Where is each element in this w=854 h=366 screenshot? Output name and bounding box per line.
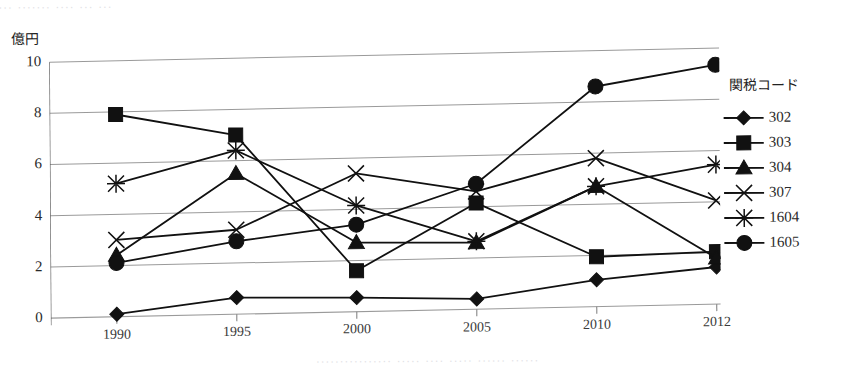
square-marker-icon [722, 131, 766, 153]
data-point-303 [229, 128, 243, 142]
data-point-303 [350, 264, 364, 278]
cross-x-marker-icon [722, 181, 766, 203]
y-axis-unit-label: 億円 [11, 28, 39, 48]
x-tick-label-2005: 2005 [442, 319, 512, 335]
series-layer [106, 57, 721, 321]
data-point-1605 [708, 57, 721, 72]
data-point-1605 [229, 234, 244, 249]
asterisk-marker-icon [722, 206, 766, 228]
y-tick-label-8: 8 [8, 104, 42, 121]
data-point-302 [470, 292, 484, 306]
data-point-1605 [588, 79, 603, 94]
data-point-307 [588, 150, 604, 166]
data-point-304 [228, 165, 244, 179]
chart-canvas [49, 43, 721, 325]
data-point-1605 [349, 217, 364, 232]
x-tick-label-2010: 2010 [562, 316, 632, 332]
data-point-302 [230, 291, 244, 305]
triangle-marker-icon [722, 156, 766, 178]
legend-item-label: 1604 [769, 209, 799, 226]
x-tick-label-2000: 2000 [322, 321, 392, 337]
plot-area [49, 43, 721, 325]
page-bottom-cutoff-caption: ................ ..... .... ..... ......… [1, 349, 854, 366]
legend-item-304: 304 [722, 154, 848, 180]
legend-item-label: 302 [769, 109, 792, 126]
data-point-1604 [107, 175, 125, 193]
x-tick-label-1990: 1990 [82, 327, 152, 343]
series-303 [109, 104, 721, 279]
data-point-1604 [467, 232, 485, 250]
data-point-302 [590, 273, 604, 287]
y-tick-label-4: 4 [8, 207, 42, 224]
data-point-302 [350, 291, 364, 305]
page-top-cutoff-text: ... ....... .... ... ... [0, 0, 853, 10]
legend-item-307: 307 [722, 179, 848, 205]
chart-legend: 関税コード 30230330430716041605 [721, 73, 848, 255]
x-tick-label-1995: 1995 [202, 324, 272, 340]
data-point-302 [110, 307, 124, 321]
legend-item-303: 303 [722, 129, 848, 155]
circle-marker-icon [722, 231, 766, 253]
data-point-1605 [468, 176, 483, 191]
diamond-marker-icon [722, 106, 766, 128]
figure-tilt-wrapper: ... ....... .... ... ... 億円 0246810 1990… [0, 0, 854, 366]
y-tick-label-6: 6 [8, 156, 42, 173]
data-point-304 [348, 235, 364, 249]
data-point-1604 [707, 156, 721, 174]
y-tick-label-2: 2 [8, 258, 42, 275]
legend-item-1605: 1605 [722, 229, 848, 255]
data-point-1604 [587, 177, 605, 195]
legend-item-label: 303 [769, 134, 792, 151]
legend-item-302: 302 [722, 104, 848, 130]
legend-item-label: 1605 [769, 234, 799, 251]
series-302 [110, 260, 721, 321]
legend-title: 関税コード [729, 73, 847, 94]
chart-figure: ... ....... .... ... ... 億円 0246810 1990… [0, 0, 854, 366]
data-point-303 [589, 250, 603, 264]
data-point-303 [469, 196, 483, 210]
data-point-1604 [347, 196, 365, 214]
data-point-1605 [109, 255, 124, 270]
data-point-303 [109, 107, 123, 121]
x-tick-label-2012: 2012 [682, 314, 752, 330]
legend-item-label: 304 [769, 159, 792, 176]
data-point-1604 [227, 141, 245, 159]
legend-items: 30230330430716041605 [722, 104, 849, 255]
series-304 [108, 162, 721, 267]
series-1604 [107, 138, 721, 252]
axis-lines [49, 62, 51, 325]
legend-item-1604: 1604 [722, 204, 848, 230]
y-tick-label-10: 10 [7, 53, 41, 70]
y-tick-label-0: 0 [9, 309, 43, 326]
legend-item-label: 307 [769, 184, 792, 201]
